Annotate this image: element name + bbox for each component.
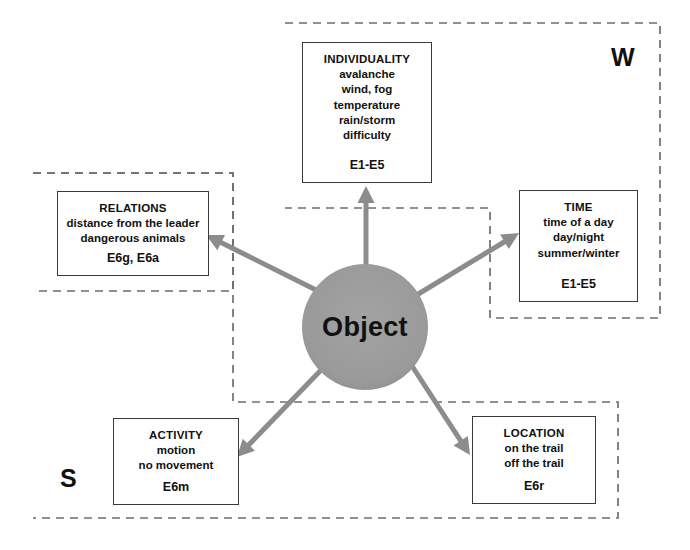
arrow-shaft — [247, 368, 323, 447]
node-line-activity: motion — [157, 443, 195, 458]
diagram-canvas: INDIVIDUALITYavalanchewind, fogtemperatu… — [0, 0, 690, 550]
node-line-individuality: temperature — [334, 98, 400, 113]
node-title-time: TIME — [564, 200, 592, 215]
node-title-relations: RELATIONS — [99, 201, 166, 216]
node-title-location: LOCATION — [504, 426, 565, 441]
arrow-to-activity — [237, 368, 323, 457]
object-node-label: Object — [322, 312, 408, 343]
node-line-location: on the trail — [505, 441, 564, 456]
node-line-individuality: avalanche — [339, 67, 395, 82]
node-box-time[interactable]: TIMEtime of a dayday/nightsummer/winterE… — [519, 190, 638, 302]
node-title-individuality: INDIVIDUALITY — [324, 52, 410, 67]
arrow-to-individuality — [358, 186, 375, 266]
node-box-activity[interactable]: ACTIVITYmotionno movementE6m — [113, 418, 239, 505]
arrow-to-relations — [206, 235, 320, 292]
node-line-activity: no movement — [139, 458, 214, 473]
node-line-individuality: wind, fog — [342, 82, 392, 97]
node-line-relations: dangerous animals — [81, 231, 186, 246]
node-title-activity: ACTIVITY — [149, 428, 203, 443]
node-line-individuality: difficulty — [343, 128, 391, 143]
node-code-time: E1-E5 — [561, 276, 596, 292]
node-line-time: time of a day — [543, 215, 613, 230]
node-code-relations: E6g, E6a — [107, 250, 159, 266]
region-label-w: W — [611, 45, 635, 70]
node-code-activity: E6m — [163, 479, 189, 495]
region-label-s: S — [60, 466, 77, 491]
object-node[interactable]: Object — [302, 264, 428, 390]
node-line-relations: distance from the leader — [67, 216, 200, 231]
node-line-time: day/night — [553, 230, 604, 245]
node-line-individuality: rain/storm — [339, 113, 395, 128]
arrow-shaft — [412, 366, 462, 443]
node-line-time: summer/winter — [538, 246, 620, 261]
arrow-to-location — [412, 366, 470, 455]
node-box-relations[interactable]: RELATIONSdistance from the leaderdangero… — [57, 191, 209, 276]
node-box-location[interactable]: LOCATIONon the trailoff the trailE6r — [472, 416, 596, 504]
arrow-to-time — [415, 233, 519, 296]
node-code-individuality: E1-E5 — [350, 157, 385, 173]
node-line-location: off the trail — [504, 456, 563, 471]
arrow-shaft — [415, 240, 507, 296]
arrow-head — [358, 186, 375, 203]
node-code-location: E6r — [524, 478, 544, 494]
node-box-individuality[interactable]: INDIVIDUALITYavalanchewind, fogtemperatu… — [302, 42, 432, 183]
